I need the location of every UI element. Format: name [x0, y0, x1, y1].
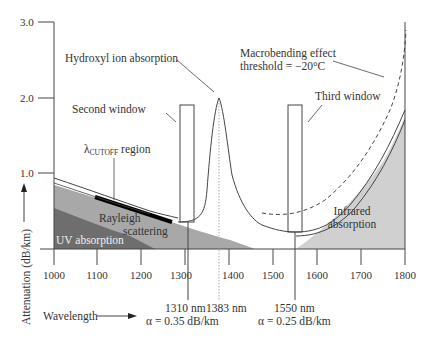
label-third-window: Third window — [315, 90, 381, 102]
x-arrow-head — [128, 313, 137, 319]
label-uv-absorption: UV absorption — [56, 234, 124, 247]
pointer-hydroxyl — [177, 60, 214, 92]
label-ir-2: absorption — [328, 218, 377, 231]
label-second-window: Second window — [72, 103, 146, 115]
x-axis-label: Wavelength — [43, 310, 98, 323]
x-tick-1400: 1400 — [222, 269, 245, 281]
pointer-third-window — [308, 105, 322, 122]
label-macrobending-2: threshold = −20°C — [240, 60, 326, 72]
x-tick-1800: 1800 — [394, 269, 417, 281]
x-tick-1000: 1000 — [43, 269, 66, 281]
label-1310nm: 1310 nm — [165, 302, 206, 314]
third-window-box — [288, 105, 302, 232]
label-hydroxyl: Hydroxyl ion absorption — [65, 52, 178, 65]
x-tick-1500: 1500 — [262, 269, 285, 281]
label-alpha-1550: α = 0.25 dB/km — [258, 315, 331, 327]
pointer-second-window — [166, 113, 176, 122]
label-macrobending-1: Macrobending effect — [240, 47, 337, 60]
attenuation-chart: 3.0 2.0 1.0 1000 1100 1200 1300 1400 150… — [0, 0, 435, 346]
x-tick-1300: 1300 — [170, 269, 193, 281]
pointer-macrobending — [333, 61, 384, 77]
label-rayleigh-2: scattering — [123, 225, 168, 238]
label-1550nm: 1550 nm — [274, 302, 315, 314]
label-ir-1: Infrared — [333, 205, 370, 217]
y-arrow-head — [21, 183, 27, 192]
x-tick-1700: 1700 — [350, 269, 373, 281]
y-tick-3: 3.0 — [20, 16, 34, 28]
label-alpha-1310: α = 0.35 dB/km — [146, 315, 219, 327]
x-tick-1600: 1600 — [306, 269, 329, 281]
y-tick-1: 1.0 — [20, 167, 34, 179]
y-tick-2: 2.0 — [20, 92, 34, 104]
y-axis-label: Attenuation (dB/km) — [20, 229, 33, 325]
label-rayleigh-1: Rayleigh — [99, 212, 141, 225]
label-lambda-cutoff: λCUTOFF region — [84, 143, 151, 157]
x-tick-1100: 1100 — [86, 269, 108, 281]
second-window-box — [180, 105, 194, 222]
label-1383nm: 1383 nm — [206, 302, 247, 314]
x-tick-1200: 1200 — [130, 269, 153, 281]
